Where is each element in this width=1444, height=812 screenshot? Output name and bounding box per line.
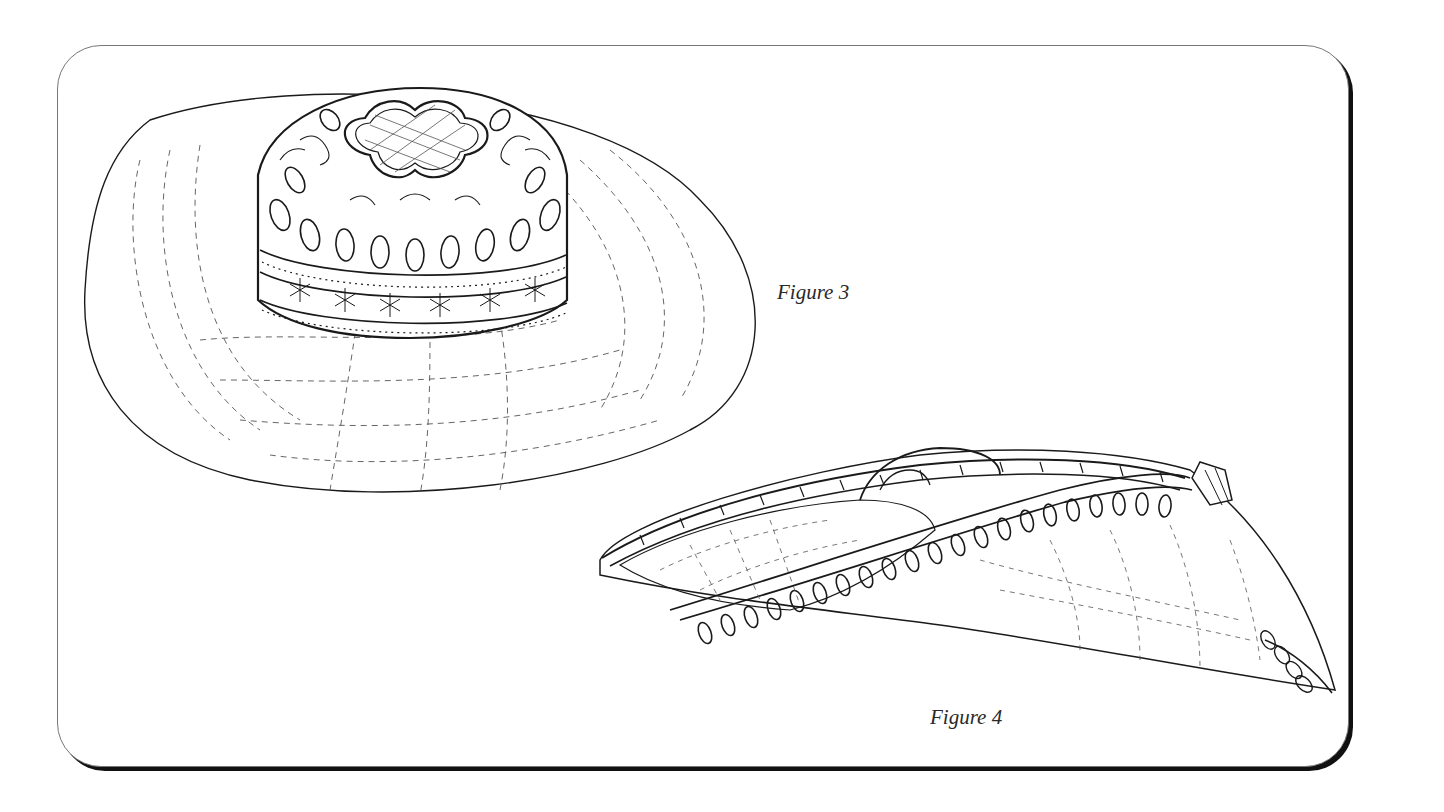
figure-3-drawing — [85, 88, 756, 495]
illustration-canvas — [0, 0, 1444, 812]
figure-4-drawing — [600, 448, 1335, 695]
figure-3-caption: Figure 3 — [777, 280, 849, 305]
figure-4-caption: Figure 4 — [930, 705, 1002, 730]
